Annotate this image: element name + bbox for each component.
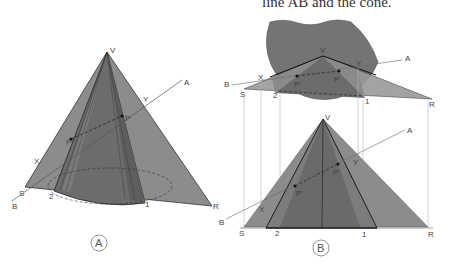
point-p-front bbox=[337, 163, 340, 166]
label-a-top: A bbox=[405, 54, 411, 63]
label-b-top: B bbox=[224, 80, 229, 89]
point-p-top bbox=[338, 70, 341, 73]
label-1-front: 1 bbox=[362, 230, 367, 239]
point-p bbox=[120, 114, 123, 117]
figure-a: V A B X Y P P' S R 2 1 A bbox=[12, 46, 219, 251]
point-p-prime-front bbox=[294, 185, 297, 188]
figure-id-a: A bbox=[95, 237, 103, 249]
label-2: 2 bbox=[49, 192, 54, 201]
label-p: P bbox=[125, 114, 130, 123]
label-s: S bbox=[19, 189, 24, 198]
label-2-top: 2 bbox=[273, 91, 278, 100]
diagram-canvas: V A B X Y P P' S R 2 1 A V A B bbox=[0, 0, 453, 272]
label-r-front: R bbox=[428, 230, 434, 239]
label-b: B bbox=[12, 202, 17, 211]
label-y-front: Y bbox=[353, 158, 359, 167]
label-b-front: B bbox=[219, 218, 224, 227]
label-s-front: S bbox=[239, 229, 244, 238]
label-r-top: R bbox=[429, 100, 435, 109]
label-a: A bbox=[184, 78, 190, 87]
label-x-front: X bbox=[259, 205, 265, 214]
label-p-top: P bbox=[334, 75, 339, 84]
label-p-front: P bbox=[333, 168, 338, 177]
label-p-prime-top: P' bbox=[294, 80, 301, 89]
label-r: R bbox=[213, 202, 219, 211]
label-y: Y bbox=[143, 95, 149, 104]
figure-id-b: B bbox=[317, 242, 324, 254]
label-p-prime: P' bbox=[66, 138, 73, 147]
figure-b-top-view: V A B X Y P P' S R 2 1 bbox=[224, 20, 435, 109]
label-y-top: Y bbox=[356, 59, 362, 68]
point-p-prime-top bbox=[296, 75, 299, 78]
label-2-front: 2 bbox=[275, 229, 280, 238]
label-v-front: V bbox=[325, 113, 331, 122]
label-a-front: A bbox=[407, 126, 413, 135]
label-1: 1 bbox=[145, 200, 150, 209]
label-p-prime-front: P' bbox=[296, 189, 303, 198]
figure-b-front-view: V A B X Y P P' S R 2 1 B bbox=[219, 113, 434, 256]
label-s-top: S bbox=[240, 90, 245, 99]
label-v: V bbox=[110, 46, 116, 55]
label-v-top: V bbox=[320, 46, 326, 55]
label-x: X bbox=[34, 157, 40, 166]
label-1-top: 1 bbox=[365, 97, 370, 106]
